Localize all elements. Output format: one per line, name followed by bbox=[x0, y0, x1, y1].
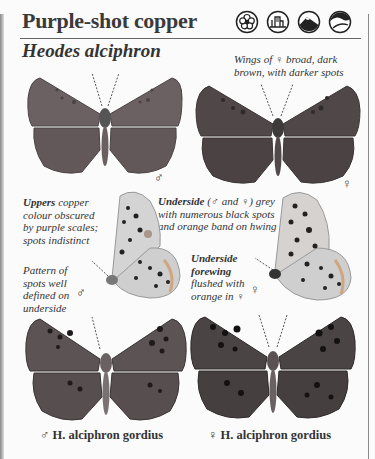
scientific-name: Heodes alciphron bbox=[22, 40, 161, 62]
habitat-icons bbox=[235, 10, 352, 34]
title-divider bbox=[20, 38, 361, 39]
field-guide-page: Purple-shot copper Heodes alciphron ♂ Wi… bbox=[0, 0, 375, 459]
female-wings-note: Wings of ♀ broad, dark brown, with darke… bbox=[234, 53, 364, 78]
female-gordius-illustration bbox=[187, 313, 359, 425]
male-gordius-caption: ♂ H. alciphron gordius bbox=[40, 428, 163, 443]
male-underside-illustration bbox=[90, 186, 185, 301]
column-rule bbox=[368, 14, 369, 459]
village-garden-icon bbox=[266, 10, 290, 34]
female-upperside-illustration bbox=[193, 80, 363, 190]
flower-meadow-icon bbox=[235, 10, 259, 34]
hillside-icon bbox=[328, 10, 352, 34]
male-symbol: ♂ bbox=[154, 170, 164, 186]
page-edge bbox=[0, 14, 4, 459]
common-name-title: Purple-shot copper bbox=[22, 8, 197, 34]
male-upperside-illustration bbox=[22, 68, 187, 180]
male-gordius-illustration bbox=[20, 315, 190, 427]
female-underside-illustration bbox=[255, 188, 355, 303]
forewing-note: Underside forewing flushed with orange i… bbox=[191, 252, 251, 302]
male-symbol-underside: ♂ bbox=[76, 285, 86, 301]
mountain-icon bbox=[297, 10, 321, 34]
female-gordius-caption: ♀ H. alciphron gordius bbox=[208, 428, 331, 443]
